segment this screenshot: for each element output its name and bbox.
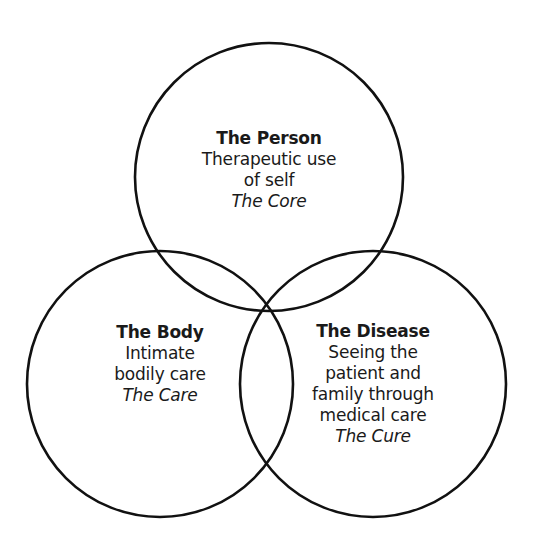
body-desc-line: Intimate — [60, 343, 260, 364]
person-label: The Person Therapeutic use of self The C… — [169, 128, 369, 212]
person-desc-line: Therapeutic use — [169, 149, 369, 170]
disease-desc-line: Seeing the — [273, 342, 473, 363]
body-title: The Body — [60, 322, 260, 343]
body-tag: The Care — [60, 385, 260, 406]
body-desc-line: bodily care — [60, 364, 260, 385]
disease-title: The Disease — [273, 321, 473, 342]
disease-desc-line: family through — [273, 384, 473, 405]
person-tag: The Core — [169, 191, 369, 212]
person-desc-line: of self — [169, 170, 369, 191]
venn-diagram — [0, 0, 534, 544]
disease-tag: The Cure — [273, 426, 473, 447]
disease-label: The Disease Seeing the patient and famil… — [273, 321, 473, 447]
disease-desc-line: patient and — [273, 363, 473, 384]
disease-desc-line: medical care — [273, 405, 473, 426]
body-label: The Body Intimate bodily care The Care — [60, 322, 260, 406]
person-title: The Person — [169, 128, 369, 149]
